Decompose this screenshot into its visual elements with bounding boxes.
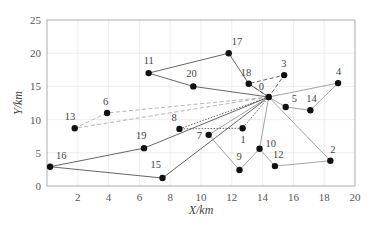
y-tick-label: 0 <box>36 180 42 192</box>
node-0-marker <box>266 94 272 100</box>
x-tick-label: 8 <box>167 191 173 203</box>
node-8-label: 8 <box>171 112 176 123</box>
node-10-marker <box>256 146 262 152</box>
node-2-marker <box>327 158 333 164</box>
node-9-label: 9 <box>237 151 242 162</box>
y-axis-title: Y/km <box>11 91 25 115</box>
node-1-marker <box>239 125 245 131</box>
node-15-label: 15 <box>151 159 162 170</box>
node-16-label: 16 <box>56 150 67 161</box>
node-20-label: 20 <box>186 68 197 79</box>
y-axis-ticks: 0510152025 <box>30 14 42 192</box>
node-8-marker <box>176 126 182 132</box>
node-3-label: 3 <box>281 58 286 69</box>
node-14-label: 14 <box>306 93 317 104</box>
y-tick-label: 10 <box>30 114 42 126</box>
x-tick-label: 14 <box>257 191 269 203</box>
node-17-marker <box>226 50 232 56</box>
x-tick-label: 2 <box>75 191 81 203</box>
node-4-label: 4 <box>336 66 342 77</box>
node-12-marker <box>272 163 278 169</box>
x-axis-title: X/km <box>188 203 214 217</box>
y-tick-label: 15 <box>30 80 42 92</box>
route-line <box>179 97 268 129</box>
x-tick-label: 6 <box>137 191 143 203</box>
node-13-marker <box>72 125 78 131</box>
x-tick-label: 20 <box>350 191 362 203</box>
route-line <box>269 83 338 110</box>
node-14-marker <box>307 107 313 113</box>
node-10-label: 10 <box>266 138 277 149</box>
x-tick-label: 16 <box>288 191 300 203</box>
x-tick-label: 10 <box>196 191 208 203</box>
node-11-label: 11 <box>144 55 154 66</box>
node-5-label: 5 <box>292 93 297 104</box>
y-tick-label: 25 <box>30 14 42 26</box>
node-16-marker <box>47 164 53 170</box>
node-7-label: 7 <box>197 130 202 141</box>
node-7-marker <box>206 132 212 138</box>
node-15-marker <box>159 175 165 181</box>
node-3-marker <box>281 72 287 78</box>
node-13-label: 13 <box>65 111 76 122</box>
node-6-label: 6 <box>103 96 108 107</box>
x-tick-label: 4 <box>106 191 112 203</box>
node-4-marker <box>335 80 341 86</box>
node-20-marker <box>190 83 196 89</box>
node-5-marker <box>283 104 289 110</box>
node-0-label: 0 <box>259 81 264 92</box>
node-6-marker <box>104 110 110 116</box>
route-network-chart: 01234567891011121314151617181920 2468101… <box>0 0 377 228</box>
node-19-marker <box>141 145 147 151</box>
node-19-label: 19 <box>136 130 147 141</box>
y-tick-label: 20 <box>30 47 42 59</box>
x-tick-label: 12 <box>226 191 237 203</box>
node-18-marker <box>246 81 252 87</box>
node-17-label: 17 <box>232 36 243 47</box>
node-2-label: 2 <box>330 144 335 155</box>
node-11-marker <box>145 70 151 76</box>
node-1-label: 1 <box>241 134 246 145</box>
route-line <box>260 97 331 166</box>
node-12-label: 12 <box>273 149 284 160</box>
node-9-marker <box>236 167 242 173</box>
x-tick-label: 18 <box>319 191 331 203</box>
y-tick-label: 5 <box>36 147 42 159</box>
node-18-label: 18 <box>241 67 252 78</box>
x-axis-ticks: 2468101214161820 <box>75 191 361 203</box>
